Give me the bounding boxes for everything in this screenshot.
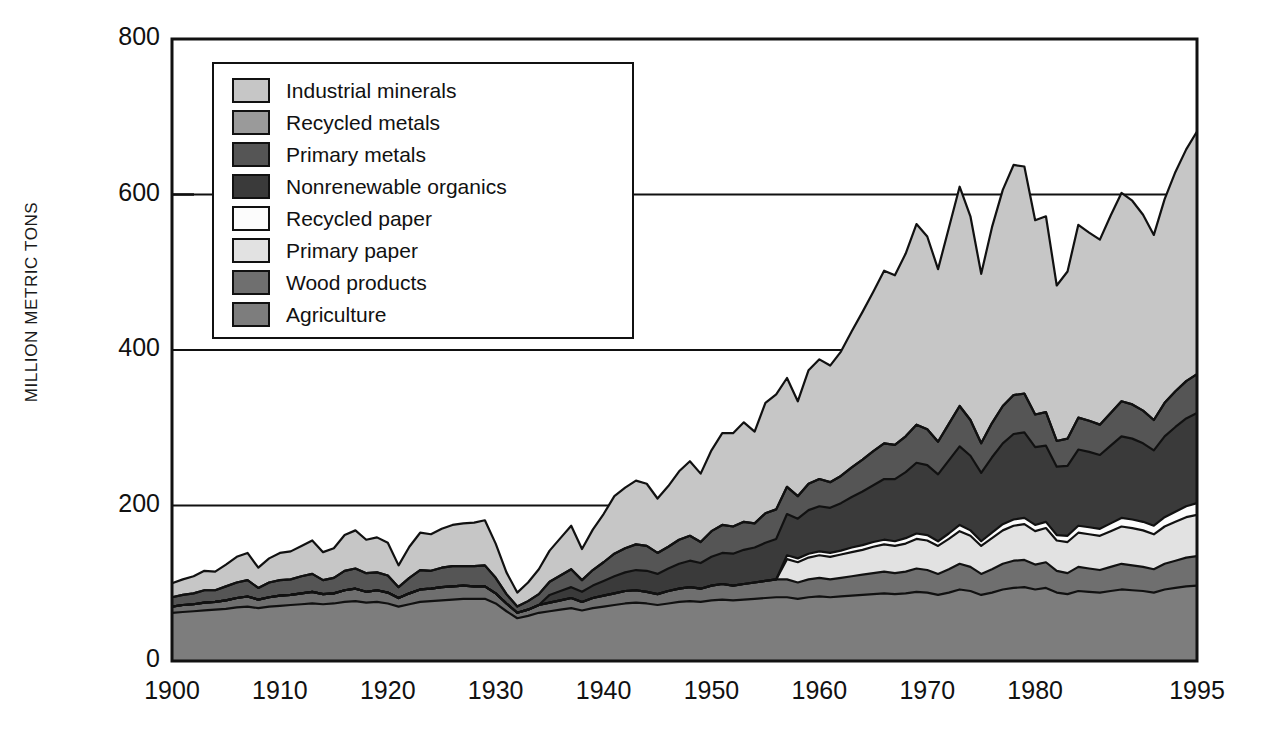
legend-item-label: Wood products bbox=[286, 272, 427, 293]
legend-item[interactable]: Nonrenewable organics bbox=[232, 170, 632, 202]
legend-item-label: Primary metals bbox=[286, 144, 426, 165]
legend-swatch-icon bbox=[232, 174, 270, 199]
chart-figure: MILLION METRIC TONS 0200400600800 Indust… bbox=[0, 0, 1274, 739]
legend-item-label: Industrial minerals bbox=[286, 80, 456, 101]
legend-item-label: Recycled metals bbox=[286, 112, 440, 133]
legend-item-label: Nonrenewable organics bbox=[286, 176, 507, 197]
legend-swatch-icon bbox=[232, 238, 270, 263]
x-tick-1910: 1910 bbox=[220, 676, 340, 705]
x-tick-1970: 1970 bbox=[867, 676, 987, 705]
x-tick-1930: 1930 bbox=[436, 676, 556, 705]
x-tick-1900: 1900 bbox=[112, 676, 232, 705]
x-tick-1960: 1960 bbox=[759, 676, 879, 705]
legend-swatch-icon bbox=[232, 78, 270, 103]
legend-item[interactable]: Industrial minerals bbox=[232, 74, 632, 106]
legend-item[interactable]: Primary metals bbox=[232, 138, 632, 170]
plot-area bbox=[0, 0, 1274, 739]
legend-swatch-icon bbox=[232, 302, 270, 327]
legend-item[interactable]: Recycled metals bbox=[232, 106, 632, 138]
legend-swatch-icon bbox=[232, 142, 270, 167]
legend-item[interactable]: Agriculture bbox=[232, 298, 632, 330]
legend-item-label: Agriculture bbox=[286, 304, 386, 325]
legend-item[interactable]: Primary paper bbox=[232, 234, 632, 266]
legend-item-label: Primary paper bbox=[286, 240, 418, 261]
chart-legend: Industrial mineralsRecycled metalsPrimar… bbox=[212, 62, 634, 339]
legend-swatch-icon bbox=[232, 110, 270, 135]
x-tick-1950: 1950 bbox=[651, 676, 771, 705]
legend-item[interactable]: Recycled paper bbox=[232, 202, 632, 234]
legend-item[interactable]: Wood products bbox=[232, 266, 632, 298]
x-tick-1920: 1920 bbox=[328, 676, 448, 705]
legend-swatch-icon bbox=[232, 206, 270, 231]
legend-swatch-icon bbox=[232, 270, 270, 295]
x-tick-1980: 1980 bbox=[975, 676, 1095, 705]
legend-item-label: Recycled paper bbox=[286, 208, 432, 229]
x-tick-1940: 1940 bbox=[544, 676, 664, 705]
x-tick-1995: 1995 bbox=[1137, 676, 1257, 705]
